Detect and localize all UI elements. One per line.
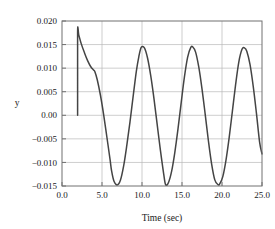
y-tick-label: 0.010 <box>37 63 58 73</box>
x-tick-label: 15.0 <box>174 190 190 200</box>
x-axis-title: Time (sec) <box>142 213 183 224</box>
x-tick-label: 5.0 <box>96 190 108 200</box>
chart-figure: 0.0200.0150.0100.0050.00−0.005−0.010−0.0… <box>0 0 275 229</box>
y-axis-title: y <box>15 98 20 108</box>
y-tick-label: 0.020 <box>37 16 58 26</box>
x-tick-label: 20.0 <box>214 190 230 200</box>
x-tick-label: 0.0 <box>56 190 68 200</box>
y-tick-label: 0.015 <box>37 40 58 50</box>
x-tick-label: 10.0 <box>134 190 150 200</box>
y-tick-label: 0.005 <box>37 87 58 97</box>
y-axis-ticks: 0.0200.0150.0100.0050.00−0.005−0.010−0.0… <box>32 16 66 191</box>
y-tick-label: −0.005 <box>32 134 58 144</box>
y-tick-label: 0.00 <box>41 110 57 120</box>
y-tick-label: −0.015 <box>32 181 58 191</box>
x-tick-label: 25.0 <box>254 190 270 200</box>
y-tick-label: −0.010 <box>32 158 58 168</box>
line-chart: 0.0200.0150.0100.0050.00−0.005−0.010−0.0… <box>0 0 275 229</box>
